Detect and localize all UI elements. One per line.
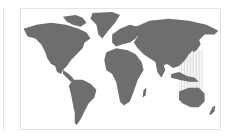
africa	[104, 48, 143, 105]
north-america	[24, 23, 91, 74]
asia	[134, 19, 219, 68]
new-zealand	[210, 105, 216, 115]
world-map-graphic	[21, 9, 220, 129]
south-america	[69, 80, 97, 125]
left-divider	[3, 8, 4, 130]
madagascar	[143, 88, 147, 98]
world-map	[20, 8, 221, 130]
